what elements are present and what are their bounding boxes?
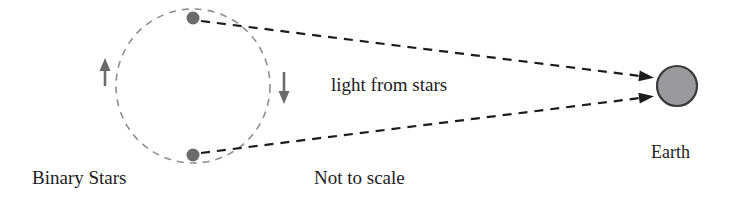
diagram-canvas: light from stars Binary Stars Not to sca…	[0, 0, 736, 201]
label-not-to-scale: Not to scale	[314, 167, 405, 188]
astronomy-diagram: light from stars Binary Stars Not to sca…	[0, 0, 736, 201]
star-top-dot	[187, 12, 200, 25]
label-binary-stars: Binary Stars	[32, 167, 126, 188]
label-earth: Earth	[651, 142, 690, 162]
label-light-from-stars: light from stars	[331, 74, 447, 95]
star-bottom-dot	[187, 149, 200, 162]
earth-sphere	[657, 66, 697, 106]
